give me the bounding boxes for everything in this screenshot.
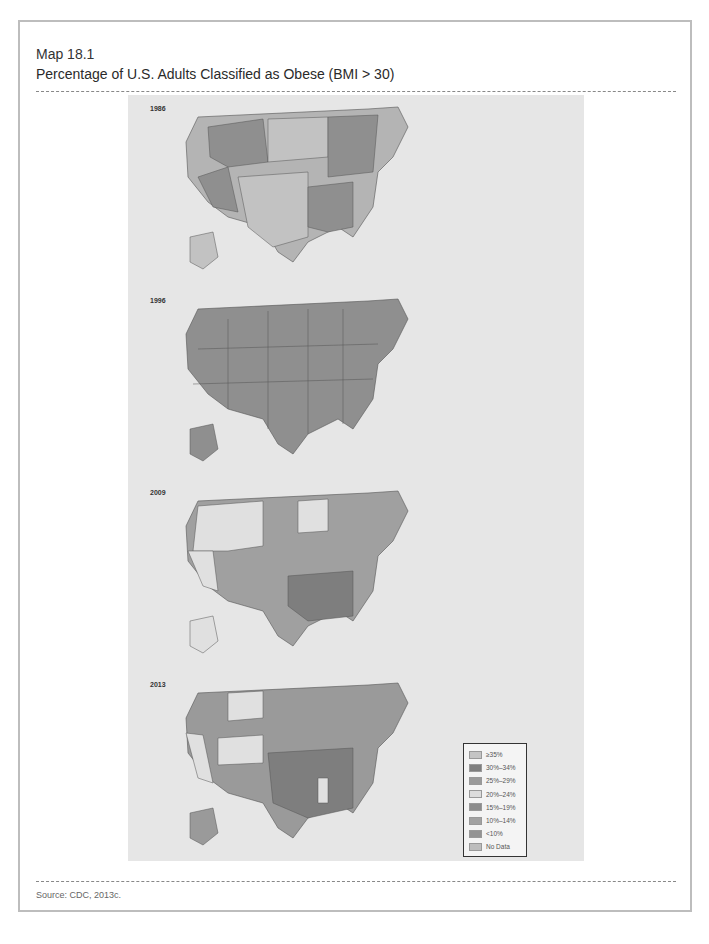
map-1986: 1986 — [128, 95, 584, 285]
map-1996: 1996 — [128, 287, 584, 477]
year-label: 2013 — [150, 681, 166, 688]
figure-label: Map 18.1 — [36, 46, 94, 62]
legend: ≥35% 30%–34% 25%–29% 20%–24% 15%–19% 10%… — [463, 743, 527, 857]
legend-item: ≥35% — [469, 748, 526, 761]
legend-item: 15%–19% — [469, 801, 526, 814]
legend-swatch — [469, 830, 482, 838]
legend-item: 20%–24% — [469, 788, 526, 801]
legend-swatch — [469, 843, 482, 851]
us-map-2013 — [168, 673, 418, 858]
legend-item: No Data — [469, 840, 526, 853]
figure-title: Percentage of U.S. Adults Classified as … — [36, 66, 394, 82]
legend-item: 10%–14% — [469, 814, 526, 827]
us-map-2009 — [168, 481, 418, 666]
legend-swatch — [469, 777, 482, 785]
map-panel: 1986 1996 2009 — [128, 95, 584, 861]
figure-frame: Map 18.1 Percentage of U.S. Adults Class… — [18, 20, 692, 912]
year-label: 1986 — [150, 105, 166, 112]
top-divider — [36, 91, 676, 92]
year-label: 1996 — [150, 297, 166, 304]
year-label: 2009 — [150, 489, 166, 496]
legend-item: 25%–29% — [469, 774, 526, 787]
legend-swatch — [469, 817, 482, 825]
us-map-1986 — [168, 97, 418, 282]
legend-swatch — [469, 764, 482, 772]
bottom-divider — [36, 881, 676, 882]
legend-item: 30%–34% — [469, 761, 526, 774]
legend-item: <10% — [469, 827, 526, 840]
map-2009: 2009 — [128, 479, 584, 669]
legend-swatch — [469, 803, 482, 811]
us-map-1996 — [168, 289, 418, 474]
legend-swatch — [469, 751, 482, 759]
legend-swatch — [469, 790, 482, 798]
source-note: Source: CDC, 2013c. — [36, 890, 121, 900]
